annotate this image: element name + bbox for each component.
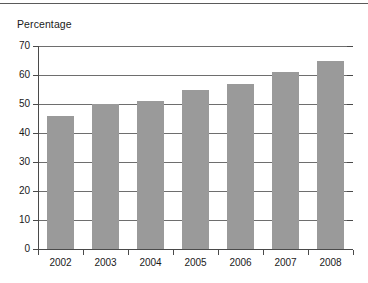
x-axis-tick-label: 2005: [173, 258, 218, 268]
x-axis-tick-mark: [173, 250, 174, 255]
y-axis-tick-mark-right: [347, 46, 353, 47]
y-axis-tick-mark-right: [347, 191, 353, 192]
gridline: [38, 46, 353, 47]
x-axis-tick-label: 2007: [263, 258, 308, 268]
x-axis-tick-mark: [263, 250, 264, 255]
x-axis-tick-mark: [128, 250, 129, 255]
x-axis-tick-mark: [308, 250, 309, 255]
y-axis-tick-mark-right: [347, 75, 353, 76]
bar-2007: [272, 72, 298, 249]
y-axis-line: [38, 46, 39, 250]
y-axis-tick-mark-right: [347, 162, 353, 163]
y-axis-tick-label: 40: [2, 128, 30, 138]
y-axis-tick-mark-right: [347, 133, 353, 134]
y-axis-tick-mark-right: [347, 220, 353, 221]
bar-2002: [47, 116, 73, 249]
y-axis-tick-label: 20: [2, 186, 30, 196]
y-axis-tick-label: 60: [2, 70, 30, 80]
x-axis-tick-label: 2008: [308, 258, 353, 268]
x-axis-tick-mark: [38, 250, 39, 255]
y-axis-tick-label: 70: [2, 41, 30, 51]
gridline: [38, 75, 353, 76]
x-axis-tick-label: 2004: [128, 258, 173, 268]
plot-area: 010203040506070 200220032004200520062007…: [0, 0, 368, 283]
x-axis-tick-mark: [83, 250, 84, 255]
x-axis-tick-label: 2006: [218, 258, 263, 268]
x-axis-tick-mark: [353, 250, 354, 255]
x-axis-tick-label: 2002: [38, 258, 83, 268]
x-axis-line: [38, 249, 353, 250]
x-axis-tick-label: 2003: [83, 258, 128, 268]
bar-2003: [92, 104, 118, 249]
y-axis-tick-mark-right: [347, 104, 353, 105]
bar-2006: [227, 84, 253, 249]
bar-2005: [182, 90, 208, 250]
y-axis-tick-label: 50: [2, 99, 30, 109]
y-axis-tick-label: 0: [2, 244, 30, 254]
y-axis-tick-label: 10: [2, 215, 30, 225]
x-axis-tick-mark: [218, 250, 219, 255]
y-axis-tick-label: 30: [2, 157, 30, 167]
bar-2004: [137, 101, 163, 249]
bar-2008: [317, 61, 343, 250]
chart-figure: Percentage 010203040506070 2002200320042…: [0, 0, 368, 283]
